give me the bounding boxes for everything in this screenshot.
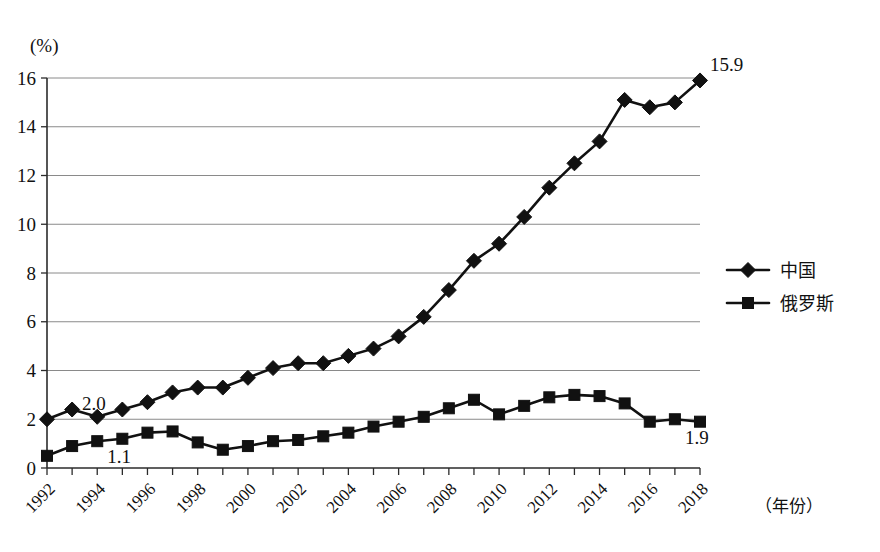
y-tick-label: 8 [27,263,37,284]
y-tick-label: 12 [17,165,36,186]
data-point-marker [519,400,530,411]
x-tick-label: 2016 [624,479,661,516]
data-point-marker [695,416,706,427]
data-point-marker [368,421,379,432]
data-point-marker [42,450,53,461]
data-point-marker [418,411,429,422]
data-point-marker [318,431,329,442]
data-point-marker [569,389,580,400]
data-point-marker [117,433,128,444]
line-chart: 0246810121416 19921994199619982000200220… [0,0,880,552]
data-label: 1.1 [107,446,131,467]
data-point-marker [240,370,255,385]
x-tick-label: 1998 [172,479,209,516]
series-group [40,73,708,461]
series-diamond [40,73,708,427]
data-point-marker [92,436,103,447]
data-point-marker [617,92,632,107]
data-point-marker [468,394,479,405]
y-tick-label: 14 [17,116,37,137]
x-tick-label: 2012 [524,479,561,516]
data-point-marker [142,427,153,438]
data-point-marker [65,402,80,417]
data-point-marker [115,402,130,417]
data-point-marker [443,403,454,414]
data-point-marker [669,414,680,425]
series-line [47,80,700,419]
data-point-marker [366,341,381,356]
x-tick-label: 2010 [473,479,510,516]
data-point-marker [741,263,756,278]
data-point-marker [544,392,555,403]
data-point-marker [217,444,228,455]
data-point-marker [619,398,630,409]
legend-label: 中国 [780,261,816,281]
data-labels-group: 2.015.91.11.9 [82,54,743,467]
data-point-marker [192,437,203,448]
y-tick-label: 10 [17,214,36,235]
y-tick-label: 6 [27,311,37,332]
data-point-marker [642,100,657,115]
x-tick-label: 2002 [273,479,310,516]
x-tick-label: 1996 [122,479,159,516]
data-point-marker [594,391,605,402]
data-point-marker [644,416,655,427]
y-tick-label: 16 [17,68,36,89]
legend-item: 中国 [727,261,816,281]
data-point-marker [215,380,230,395]
gridlines-group [47,78,700,419]
data-point-marker [494,409,505,420]
x-tick-label: 2000 [222,479,259,516]
data-point-marker [316,356,331,371]
x-tick-label: 2008 [423,479,460,516]
x-tick-label: 2018 [674,479,711,516]
data-point-marker [291,356,306,371]
data-point-marker [341,348,356,363]
data-point-marker [140,395,155,410]
data-point-marker [266,361,281,376]
x-axis-ticks: 1992199419961998200020022004200620082010… [21,468,711,517]
x-tick-label: 1994 [72,479,110,517]
data-point-marker [167,426,178,437]
x-axis-title: （年份） [755,497,823,516]
x-tick-label: 2004 [323,479,361,517]
data-point-marker [242,441,253,452]
chart-canvas: 0246810121416 19921994199619982000200220… [0,0,880,552]
data-point-marker [67,441,78,452]
series-square [42,389,706,461]
x-tick-label: 2014 [574,479,612,517]
data-point-marker [40,412,55,427]
data-point-marker [165,385,180,400]
legend-item: 俄罗斯 [727,294,834,314]
data-point-marker [293,434,304,445]
data-point-marker [268,436,279,447]
legend: 中国俄罗斯 [727,261,834,314]
legend-label: 俄罗斯 [780,294,834,314]
y-axis-unit-label: (%) [30,35,58,57]
data-label: 15.9 [710,54,743,75]
data-label: 2.0 [82,393,106,414]
data-point-marker [743,298,754,309]
y-tick-label: 4 [27,360,37,381]
data-point-marker [393,416,404,427]
data-point-marker [343,427,354,438]
x-tick-label: 1992 [21,479,58,516]
data-label: 1.9 [685,427,709,448]
y-tick-label: 2 [27,409,37,430]
y-tick-label: 0 [27,458,37,479]
data-point-marker [190,380,205,395]
x-tick-label: 2006 [373,479,410,516]
